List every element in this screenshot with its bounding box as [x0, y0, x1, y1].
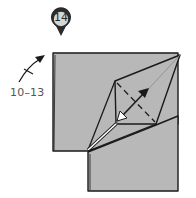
repeat-arrow-icon [19, 55, 45, 82]
origami-step-diagram [0, 0, 196, 198]
step-number: 14 [44, 11, 78, 24]
repeat-steps-label: 10–13 [10, 86, 45, 99]
